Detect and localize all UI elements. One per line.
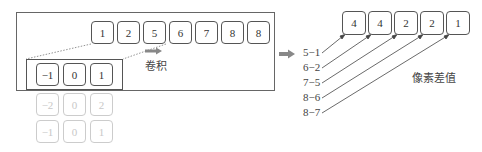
right-arrow-icon [279, 50, 295, 59]
kernel-cell: 1 [90, 63, 113, 86]
difference-label: 8−7 [303, 106, 320, 118]
kernel-cell-faded: 0 [63, 93, 86, 116]
kernel-cell-faded: 2 [90, 93, 113, 116]
output-cell: 2 [394, 11, 418, 35]
kernel-cell-faded: 0 [63, 120, 86, 143]
output-cell: 1 [446, 11, 470, 35]
pixel-difference-label: 像素差值 [412, 69, 456, 85]
kernel-cell: −1 [36, 63, 59, 86]
difference-label: 5−1 [303, 46, 320, 58]
output-cell: 4 [342, 11, 366, 35]
kernel-cell-faded: −1 [36, 120, 59, 143]
kernel-cell-faded: −2 [36, 93, 59, 116]
difference-label: 7−5 [303, 76, 320, 88]
difference-label: 8−6 [303, 91, 320, 103]
kernel-cell-faded: 1 [90, 120, 113, 143]
output-cell: 4 [368, 11, 392, 35]
kernel-cell: 0 [63, 63, 86, 86]
convolution-label: 卷积 [145, 57, 167, 73]
output-cell: 2 [420, 11, 444, 35]
difference-label: 6−2 [303, 61, 320, 73]
